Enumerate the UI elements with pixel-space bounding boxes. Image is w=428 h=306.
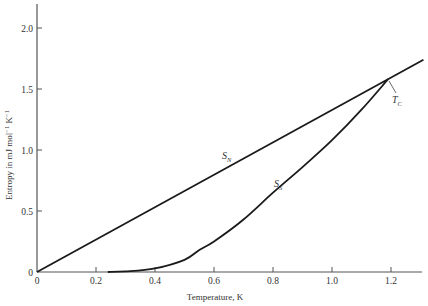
x-tick-label: 0.6 bbox=[208, 276, 220, 286]
sn-label: SN bbox=[222, 150, 232, 163]
x-tick-label: 0.4 bbox=[149, 276, 161, 286]
x-tick-label: 0.2 bbox=[90, 276, 102, 286]
y-ticks: 00.51.01.52.0 bbox=[21, 24, 42, 278]
y-tick-label: 1.0 bbox=[21, 146, 33, 156]
tc-label: TC bbox=[392, 94, 403, 107]
y-tick-label: 1.5 bbox=[21, 85, 33, 95]
curve-labels: SN SS TC bbox=[222, 81, 403, 191]
y-tick-label: 0 bbox=[28, 268, 33, 278]
x-tick-label: 0 bbox=[35, 276, 40, 286]
entropy-chart: 00.20.40.60.81.01.2 00.51.01.52.0 SN SS … bbox=[0, 0, 428, 306]
x-axis-title: Temperature, K bbox=[187, 292, 244, 302]
ss-curve bbox=[108, 79, 388, 272]
x-tick-label: 1.0 bbox=[326, 276, 338, 286]
tc-pointer bbox=[389, 81, 396, 93]
axes bbox=[37, 4, 422, 272]
x-ticks: 00.20.40.60.81.01.2 bbox=[35, 267, 398, 286]
y-axis-title: Entropy in mJ mol−1 K−1 bbox=[3, 110, 14, 200]
sn-curve bbox=[37, 60, 423, 272]
y-tick-label: 0.5 bbox=[21, 207, 33, 217]
curves bbox=[37, 60, 423, 272]
ss-label: SS bbox=[274, 178, 283, 191]
x-tick-label: 1.2 bbox=[385, 276, 397, 286]
x-tick-label: 0.8 bbox=[267, 276, 279, 286]
y-tick-label: 2.0 bbox=[21, 24, 33, 34]
